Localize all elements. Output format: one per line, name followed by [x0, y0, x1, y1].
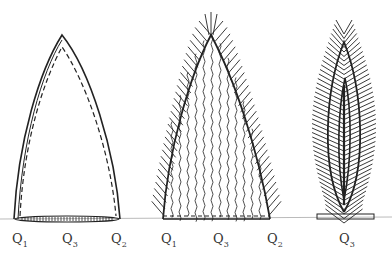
- label-fig1-q2: Q2: [111, 231, 127, 249]
- figure-3-feather: [312, 20, 376, 223]
- figure-1-arch: [14, 35, 120, 222]
- diagram-canvas: [0, 0, 392, 268]
- label-fig2-q1: Q1: [161, 231, 177, 249]
- label-fig1-q1: Q1: [12, 231, 28, 249]
- label-fig2-q2: Q2: [267, 231, 283, 249]
- figure-2-arch: [152, 12, 281, 222]
- label-fig1-q3: Q3: [62, 231, 78, 249]
- label-fig3-q3: Q3: [339, 231, 355, 249]
- label-fig2-q3: Q3: [213, 231, 229, 249]
